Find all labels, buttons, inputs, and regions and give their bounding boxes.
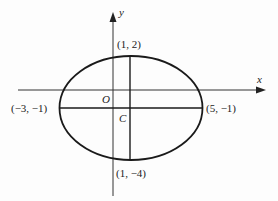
x-axis-arrow-icon: [256, 87, 266, 94]
x-axis-label: x: [257, 74, 262, 85]
right-vertex-label: (5, −1): [206, 103, 236, 114]
left-vertex-label: (−3, −1): [11, 103, 47, 114]
bottom-vertex-label: (1, −4): [116, 168, 146, 179]
origin-label: O: [102, 94, 110, 105]
y-axis-label: y: [119, 7, 124, 18]
center-label: C: [119, 113, 126, 124]
y-axis-arrow-icon: [110, 12, 117, 22]
ellipse-diagram: y x O C (1, 2) (−3, −1) (5, −1) (1, −4): [0, 0, 278, 201]
top-vertex-label: (1, 2): [117, 39, 141, 50]
